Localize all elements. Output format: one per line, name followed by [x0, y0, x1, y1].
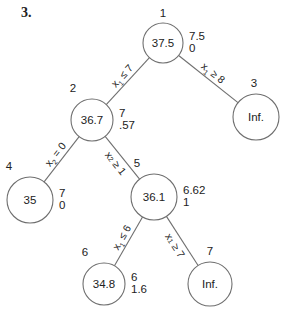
node-id-label: 3 [251, 77, 257, 89]
node-side-value-bottom: .57 [119, 119, 135, 131]
edge-label-constraint: = 0 [48, 140, 68, 162]
node-side-value-top: 6 [131, 271, 137, 283]
tree-node-3: Inf.3 [233, 77, 279, 140]
tree-node-6: 34.8661.6 [82, 246, 147, 305]
branch-and-bound-tree: x1 ≤ 7x1 ≥ 8x2 = 0x2 ≥ 1x1 ≤ 6x1 ≥ 7 37.… [0, 0, 284, 315]
node-id-label: 7 [207, 245, 213, 257]
node-value: 36.1 [143, 191, 165, 203]
node-value: 36.7 [81, 114, 103, 126]
node-side-value-bottom: 1.6 [131, 283, 147, 295]
edge-label-2-5: x2 ≥ 1 [103, 149, 129, 177]
node-value: 34.8 [93, 278, 115, 290]
edge-label-constraint: ≥ 8 [206, 65, 227, 85]
node-side-value-top: 7 [59, 187, 65, 199]
node-value: Inf. [202, 278, 218, 290]
node-id-label: 4 [6, 160, 13, 172]
node-id-label: 1 [160, 7, 166, 19]
node-id-label: 6 [82, 246, 88, 258]
node-id-label: 5 [134, 157, 140, 169]
tree-node-1: 37.517.50 [143, 7, 205, 63]
node-side-value-bottom: 0 [59, 199, 65, 211]
edge-label-5-7: x1 ≥ 7 [163, 231, 188, 260]
tree-node-4: 35470 [6, 160, 66, 223]
node-side-value-bottom: 0 [189, 42, 195, 54]
node-value: 35 [24, 194, 37, 206]
node-side-value-top: 7 [119, 107, 125, 119]
node-id-label: 2 [70, 82, 76, 94]
node-side-value-top: 7.5 [189, 30, 205, 42]
nodes-layer: 37.517.5036.727.57Inf.33547036.156.62134… [6, 7, 279, 306]
edge-label-5-6: x1 ≤ 6 [110, 223, 135, 253]
edge-label-constraint: ≤ 7 [115, 62, 136, 83]
tree-node-7: Inf.7 [188, 245, 232, 306]
node-side-value-bottom: 1 [183, 196, 189, 208]
tree-node-2: 36.727.57 [70, 82, 135, 141]
tree-node-5: 36.156.621 [131, 157, 205, 220]
node-value: 37.5 [152, 37, 174, 49]
node-value: Inf. [248, 111, 264, 123]
node-side-value-top: 6.62 [183, 184, 205, 196]
edge-label-constraint: ≤ 6 [114, 223, 133, 244]
